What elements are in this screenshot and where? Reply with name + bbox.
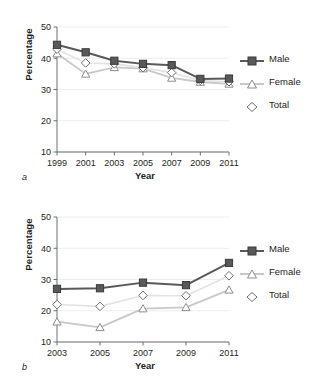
legend-label-total-a: Total [269,99,289,110]
legend-b: Male Female Total [239,237,301,306]
data-point-total [139,291,148,300]
figure-two-panel-line-charts: 10203040501999200120032005200720092011 P… [0,0,319,380]
data-point-male [168,62,175,69]
x-tick-label: 2005 [133,158,153,168]
data-point-male [225,75,232,82]
x-tick-label: 2005 [90,348,110,358]
legend-label-female-b: Female [269,266,301,277]
legend-item-male-b[interactable]: Male [239,237,301,260]
legend-item-female-b[interactable]: Female [239,260,301,283]
panel-b: 102030405020032005200720092011 Percentag… [0,190,319,380]
data-point-total [225,271,234,280]
panel-label-b: b [22,363,27,372]
legend-marker-triangle-icon [239,266,265,278]
y-tick-label: 30 [41,275,51,285]
x-tick-label: 2011 [219,158,238,168]
data-point-male [82,49,89,56]
data-point-total [167,68,176,77]
y-tick-label: 20 [41,306,51,316]
data-point-male [96,285,103,292]
legend-item-total-a[interactable]: Total [239,93,301,116]
data-point-male [197,75,204,82]
x-tick-label: 2003 [104,158,124,168]
x-axis-title-a: Year [60,170,230,181]
y-tick-label: 10 [41,337,51,347]
legend-item-female-a[interactable]: Female [239,70,301,93]
y-axis-title-a: Percentage [23,6,34,104]
y-tick-label: 10 [41,147,51,157]
y-tick-label: 50 [41,212,51,222]
x-tick-label: 2009 [190,158,210,168]
legend-item-male-a[interactable]: Male [239,47,301,70]
data-point-total [53,300,62,309]
data-point-male [139,60,146,67]
legend-marker-square-icon [239,243,265,255]
x-tick-label: 2001 [76,158,96,168]
legend-a: Male Female Total [239,47,301,116]
y-tick-label: 40 [41,244,51,254]
y-axis-title-b: Percentage [23,196,34,294]
legend-label-male-b: Male [269,243,290,254]
x-tick-label: 1999 [47,158,67,168]
x-tick-label: 2009 [176,348,196,358]
x-tick-label: 2007 [162,158,182,168]
data-point-total [182,291,191,300]
data-point-male [111,57,118,64]
data-point-male [53,41,60,48]
legend-marker-diamond-icon [239,99,265,111]
legend-marker-diamond-icon [239,289,265,301]
data-point-female [225,286,233,293]
data-point-total [81,59,90,68]
y-tick-label: 50 [41,22,51,32]
x-tick-label: 2003 [47,348,67,358]
legend-marker-triangle-icon [239,76,265,88]
legend-marker-square-icon [239,53,265,65]
y-tick-label: 30 [41,85,51,95]
data-point-male [182,282,189,289]
data-point-male [139,279,146,286]
data-point-male [53,285,60,292]
x-tick-label: 2007 [133,348,153,358]
data-point-male [225,259,232,266]
legend-item-total-b[interactable]: Total [239,283,301,306]
panel-a: 10203040501999200120032005200720092011 P… [0,0,319,190]
legend-label-male-a: Male [269,53,290,64]
data-point-total [96,302,105,311]
x-tick-label: 2011 [219,348,238,358]
y-tick-label: 20 [41,116,51,126]
panel-label-a: a [22,173,27,182]
y-tick-label: 40 [41,54,51,64]
legend-label-total-b: Total [269,289,289,300]
x-axis-title-b: Year [60,360,230,371]
legend-label-female-a: Female [269,76,301,87]
